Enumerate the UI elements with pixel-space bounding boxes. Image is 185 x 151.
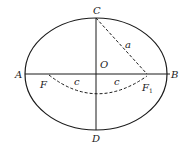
label-focus-f1: F1 — [141, 82, 153, 94]
ellipse-diagram: C D A B O F F1 a c c — [0, 0, 185, 151]
label-focus-f: F — [39, 79, 48, 90]
label-focal-c-left: c — [74, 76, 80, 87]
label-center-o: O — [100, 59, 108, 70]
label-d-vertex: D — [91, 133, 100, 144]
label-b-vertex: B — [170, 69, 178, 80]
label-semi-major-a: a — [125, 39, 131, 50]
label-c-vertex: C — [93, 5, 101, 16]
dashed-arc-foci — [49, 75, 147, 94]
label-focal-c-right: c — [114, 76, 120, 87]
label-a-vertex: A — [14, 69, 22, 80]
